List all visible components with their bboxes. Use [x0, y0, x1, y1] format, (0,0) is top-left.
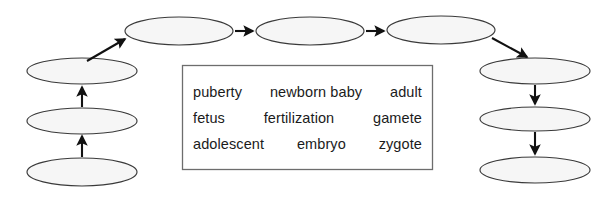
word-puberty[interactable]: puberty: [193, 84, 242, 100]
word-newborn-baby[interactable]: newborn baby: [270, 84, 362, 100]
word-fertilization[interactable]: fertilization: [264, 110, 335, 126]
word-bank-row: adolescent embryo zygote: [193, 131, 422, 157]
node-right-top[interactable]: [480, 58, 590, 84]
word-adult[interactable]: adult: [390, 84, 422, 100]
node-top-first[interactable]: [125, 17, 233, 45]
word-zygote[interactable]: zygote: [379, 136, 422, 152]
word-fetus[interactable]: fetus: [193, 110, 225, 126]
word-gamete[interactable]: gamete: [373, 110, 422, 126]
diagram-canvas: puberty newborn baby adult fetus fertili…: [0, 0, 615, 198]
arrow-top-third-to-right-top: [492, 38, 527, 57]
word-bank-row: puberty newborn baby adult: [193, 79, 422, 105]
node-left-middle[interactable]: [27, 108, 137, 134]
arrow-left-top-to-top-first: [87, 39, 125, 61]
node-top-third[interactable]: [387, 16, 495, 44]
node-left-top[interactable]: [27, 58, 137, 84]
word-adolescent[interactable]: adolescent: [193, 136, 264, 152]
node-top-second[interactable]: [256, 17, 364, 45]
word-bank-row: fetus fertilization gamete: [193, 105, 422, 131]
node-left-bottom[interactable]: [27, 158, 137, 186]
node-right-middle[interactable]: [480, 107, 590, 131]
word-bank: puberty newborn baby adult fetus fertili…: [182, 65, 433, 170]
node-right-bottom[interactable]: [480, 157, 590, 183]
word-embryo[interactable]: embryo: [297, 136, 346, 152]
